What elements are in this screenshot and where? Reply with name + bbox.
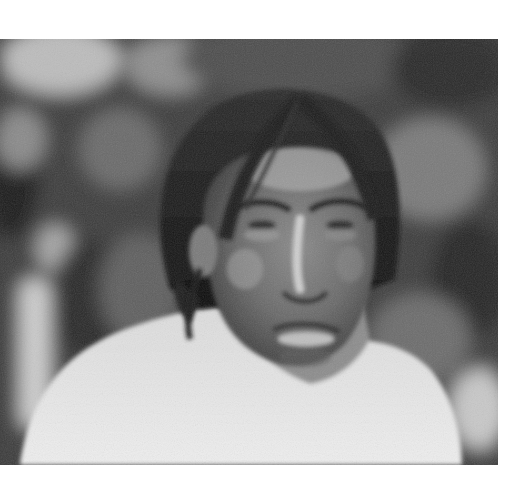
film-grain: [0, 39, 498, 465]
portrait-photo: [0, 39, 498, 465]
portrait-illustration: [0, 39, 498, 465]
page: [0, 0, 532, 504]
